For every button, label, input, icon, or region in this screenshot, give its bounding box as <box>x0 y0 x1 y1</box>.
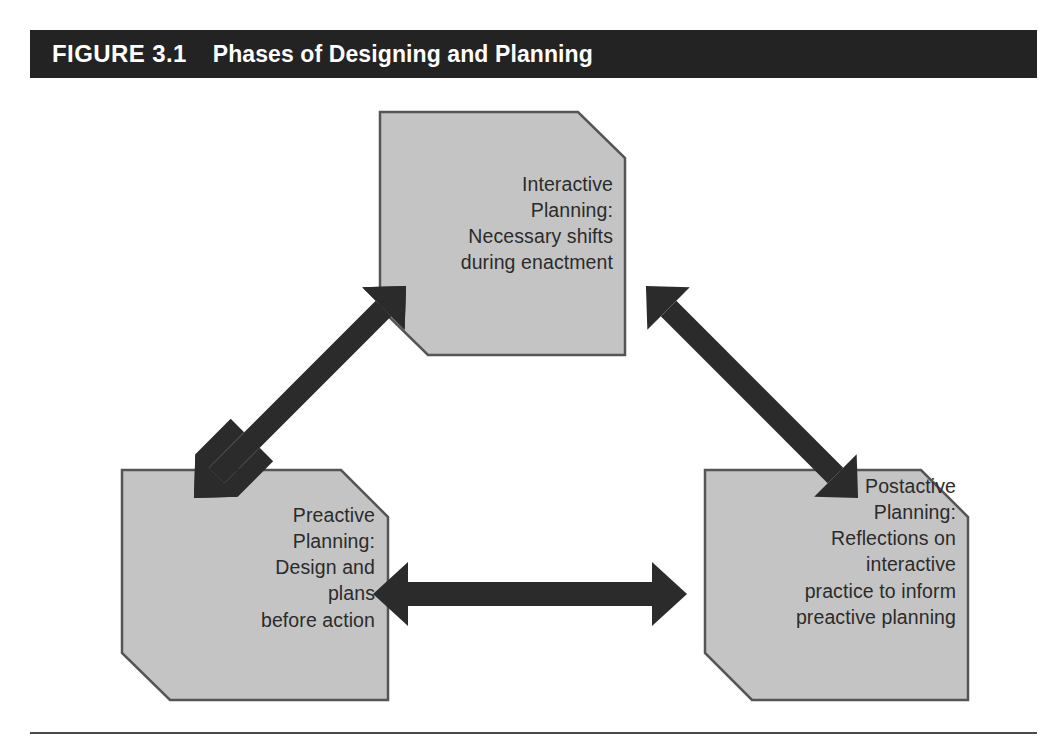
interactive-planning-label: Interactive Planning: Necessary shifts d… <box>395 171 613 276</box>
diagram-canvas: Interactive Planning: Necessary shifts d… <box>0 78 1054 733</box>
figure-title-bar: FIGURE 3.1 Phases of Designing and Plann… <box>30 30 1037 78</box>
arrow-preactive-postactive <box>373 562 687 626</box>
figure-title-inner: FIGURE 3.1 Phases of Designing and Plann… <box>30 40 593 68</box>
figure-title-text: Phases of Designing and Planning <box>213 41 593 68</box>
figure-container: FIGURE 3.1 Phases of Designing and Plann… <box>0 0 1054 749</box>
figure-bottom-rule <box>30 732 1037 734</box>
preactive-planning-label: Preactive Planning: Design and plans bef… <box>140 502 375 633</box>
figure-number-label: FIGURE 3.1 <box>52 40 187 68</box>
postactive-planning-label: Postactive Planning: Reflections on inte… <box>718 473 956 630</box>
